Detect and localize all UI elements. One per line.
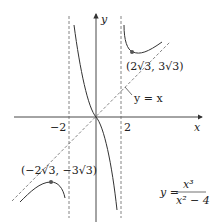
- curve-left-branch: [20, 182, 65, 202]
- local-max-point: [49, 180, 53, 184]
- tick-2: 2: [124, 121, 131, 134]
- asymptote-label-leader: [125, 87, 132, 95]
- asymptote-label: y = x: [133, 92, 163, 105]
- curve-right-branch: [124, 25, 162, 53]
- formula-denominator: x² − 4: [176, 194, 210, 207]
- function-formula: y = x³ x² − 4: [159, 178, 210, 207]
- graph-canvas: y x −2 2 y = x (2√3, 3√3) (−2√3, −3√3) y…: [0, 0, 216, 224]
- tick-neg2: −2: [50, 121, 66, 134]
- local-min-point: [130, 50, 134, 54]
- y-axis-label: y: [100, 13, 108, 26]
- formula-numerator: x³: [183, 178, 194, 191]
- local-max-label: (−2√3, −3√3): [21, 164, 97, 177]
- local-min-label: (2√3, 3√3): [126, 60, 184, 73]
- curve-middle-branch: [74, 25, 117, 210]
- x-axis-label: x: [194, 121, 201, 134]
